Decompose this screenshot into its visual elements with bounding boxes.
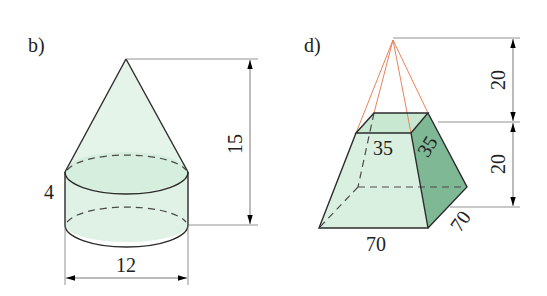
dim-base-edge-side: 70 [446,206,475,235]
figure-d: d) 35 35 70 70 20 20 [304,34,520,255]
figure-b-label: b) [28,34,45,57]
figure-canvas: b) 15 4 12 d) [0,0,547,296]
dim-base-edge-front: 70 [366,233,386,255]
dim-diameter: 12 [116,254,136,276]
figure-b: b) 15 4 12 [28,34,258,285]
dim-frustum-height: 20 [487,154,509,174]
apex-line-4 [393,40,428,113]
dim-total-height: 15 [224,134,246,154]
cylinder-top-face [65,152,188,192]
dim-top-edge-front: 35 [373,137,393,159]
apex-line-2 [374,40,393,113]
figure-d-label: d) [304,34,321,57]
dim-upper-height: 20 [487,70,509,90]
dim-cylinder-height: 4 [44,181,54,203]
